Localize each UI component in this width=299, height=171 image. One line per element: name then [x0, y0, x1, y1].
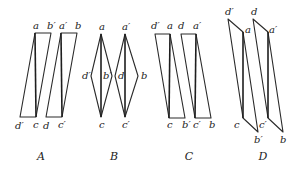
vertex-label: c′ [259, 119, 268, 130]
vertex-label: d′ [151, 20, 160, 31]
vertex-label: d [43, 120, 49, 131]
vertex-label: c′ [193, 119, 202, 130]
figure-caption: A [36, 150, 45, 163]
vertex-label: b [209, 119, 215, 130]
vertex-label: a′ [59, 20, 68, 31]
figure-caption: C [185, 150, 194, 163]
vertex-label: b [280, 134, 286, 145]
vertex-label: b′ [254, 134, 263, 145]
vertex-label: b′ [103, 70, 112, 81]
diagonal-line [169, 34, 170, 118]
figure-c: d′ada′cb′c′bC [151, 20, 215, 163]
vertex-label: a [99, 21, 105, 32]
vertex-label: c′ [122, 119, 131, 130]
vertex-label: b [75, 20, 81, 31]
parallelogram-diagram: ab′a′bd′cdc′Aaa′d′b′dbcc′Bd′ada′cb′c′bCd… [0, 0, 299, 171]
vertex-label: d′ [82, 70, 91, 81]
vertex-label: a′ [193, 20, 202, 31]
vertex-label: a′ [269, 24, 278, 35]
diagonal-line [61, 33, 62, 117]
vertex-label: a [245, 24, 251, 35]
vertex-label: a [167, 20, 173, 31]
vertex-label: c [33, 119, 39, 130]
figure-d: d′ada′cb′c′bD [225, 6, 286, 163]
vertex-label: c [234, 119, 240, 130]
vertex-label: b′ [182, 119, 191, 130]
vertex-label: b′ [47, 20, 56, 31]
vertex-label: d [251, 6, 257, 17]
figure-a: ab′a′bd′cdc′A [15, 20, 81, 163]
vertex-label: b [141, 70, 147, 81]
figure-caption: B [109, 150, 118, 163]
vertex-label: c′ [58, 119, 67, 130]
vertex-label: a [33, 20, 39, 31]
figure-caption: D [258, 150, 268, 163]
figure-b: aa′d′b′dbcc′B [82, 21, 147, 163]
vertex-label: d′ [15, 120, 24, 131]
diagonal-line [195, 34, 196, 118]
diagonal-line [35, 33, 36, 117]
vertex-label: a′ [122, 21, 131, 32]
vertex-label: d [118, 70, 124, 81]
vertex-label: c [167, 119, 173, 130]
vertex-label: d′ [225, 6, 234, 17]
vertex-label: d [178, 20, 184, 31]
vertex-label: c [99, 119, 105, 130]
